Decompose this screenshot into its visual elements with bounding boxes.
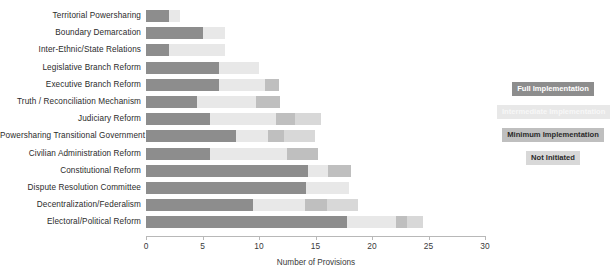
category-label: Civilian Administration Reform xyxy=(0,148,141,160)
bar-row xyxy=(146,44,485,56)
bar-segment xyxy=(328,165,351,177)
category-labels: Territorial PowersharingBoundary Demarca… xyxy=(0,8,141,236)
bar-segment xyxy=(169,44,226,56)
bar-row xyxy=(146,216,485,228)
bar-segment xyxy=(287,148,318,160)
stacked-bar-chart: Territorial PowersharingBoundary Demarca… xyxy=(0,0,612,278)
x-tick-label: 25 xyxy=(424,241,433,251)
bar-segment xyxy=(146,44,169,56)
bar-segment xyxy=(146,182,306,194)
bar-segment xyxy=(210,113,276,125)
bar-segment xyxy=(256,96,281,108)
legend-item[interactable]: Full Implementation xyxy=(497,77,609,96)
bar-row xyxy=(146,10,485,22)
x-tick-label: 30 xyxy=(480,241,489,251)
bar-segment xyxy=(305,199,326,211)
bar-row xyxy=(146,113,485,125)
bar-segment xyxy=(203,27,226,39)
x-axis-title: Number of Provisions xyxy=(146,258,486,267)
bar-segment xyxy=(308,165,328,177)
bar-segment xyxy=(146,199,253,211)
legend-item[interactable]: Minimum Implementation xyxy=(497,123,609,142)
legend-swatch-label: Full Implementation xyxy=(512,82,594,96)
category-label: Decentralization/Federalism xyxy=(0,199,141,211)
category-label: Truth / Reconciliation Mechanism xyxy=(0,96,141,108)
bar-segment xyxy=(265,79,280,91)
category-label: Territorial Powersharing xyxy=(0,10,141,22)
bar-segment xyxy=(146,113,210,125)
category-label: Executive Branch Reform xyxy=(0,79,141,91)
bar-row xyxy=(146,27,485,39)
legend-swatch-label: Minimum Implementation xyxy=(502,128,604,142)
legend-item[interactable]: Intermediate Implementation xyxy=(497,100,609,119)
bar-row xyxy=(146,79,485,91)
x-tick-label: 5 xyxy=(200,241,205,251)
x-tick-label: 0 xyxy=(144,241,149,251)
category-label: Electoral/Political Reform xyxy=(0,216,141,228)
bar-segment xyxy=(197,96,256,108)
bar-segment xyxy=(169,10,180,22)
bar-segment xyxy=(146,130,236,142)
bar-segment xyxy=(284,130,316,142)
bar-segment xyxy=(253,199,305,211)
bar-segment xyxy=(146,79,219,91)
category-label: Legislative Branch Reform xyxy=(0,62,141,74)
x-tick xyxy=(203,236,204,240)
bar-segment xyxy=(146,216,347,228)
bar-segment xyxy=(146,165,308,177)
x-tick xyxy=(146,236,147,240)
bar-row xyxy=(146,182,485,194)
bar-segment xyxy=(146,62,219,74)
x-tick xyxy=(429,236,430,240)
category-label: Inter-Ethnic/State Relations xyxy=(0,44,141,56)
bar-row xyxy=(146,130,485,142)
bar-segment xyxy=(295,113,321,125)
bar-row xyxy=(146,62,485,74)
x-tick xyxy=(316,236,317,240)
x-tick-label: 20 xyxy=(367,241,376,251)
x-tick xyxy=(372,236,373,240)
bar-segment xyxy=(146,148,210,160)
bar-segment xyxy=(276,113,295,125)
bar-segment xyxy=(396,216,407,228)
bar-segment xyxy=(268,130,284,142)
legend-item[interactable]: Not Initiated xyxy=(497,146,609,165)
bar-segment xyxy=(306,182,349,194)
category-label: Boundary Demarcation xyxy=(0,27,141,39)
bar-segment xyxy=(347,216,396,228)
x-tick-label: 10 xyxy=(254,241,263,251)
category-label: Judiciary Reform xyxy=(0,113,141,125)
x-tick xyxy=(259,236,260,240)
category-label: Powersharing Transitional Government xyxy=(0,130,141,142)
category-label: Dispute Resolution Committee xyxy=(0,182,141,194)
bar-row xyxy=(146,96,485,108)
bar-segment xyxy=(210,148,287,160)
bar-row xyxy=(146,199,485,211)
legend-swatch-label: Not Initiated xyxy=(526,151,580,165)
x-tick-label: 15 xyxy=(311,241,320,251)
bar-segment xyxy=(219,79,264,91)
bar-segment xyxy=(146,96,197,108)
bar-segment xyxy=(146,27,203,39)
bar-row xyxy=(146,165,485,177)
bar-segment xyxy=(236,130,268,142)
bar-segment xyxy=(219,62,259,74)
plot-area xyxy=(146,8,485,236)
x-tick xyxy=(485,236,486,240)
bar-segment xyxy=(146,10,169,22)
bar-segment xyxy=(327,199,359,211)
legend: Full ImplementationIntermediate Implemen… xyxy=(497,77,609,169)
category-label: Constitutional Reform xyxy=(0,165,141,177)
bar-row xyxy=(146,148,485,160)
bar-segment xyxy=(407,216,423,228)
legend-swatch-label: Intermediate Implementation xyxy=(497,105,610,119)
